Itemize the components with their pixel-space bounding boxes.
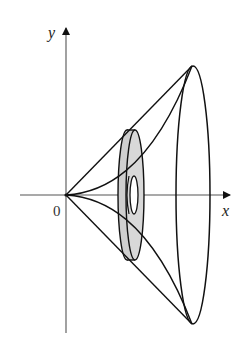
origin-label: 0 (53, 203, 61, 219)
y-axis-label: y (46, 24, 56, 42)
washer-cross-section (118, 130, 144, 260)
washer-hole (130, 176, 138, 214)
solid-of-revolution-diagram: y x 0 (0, 0, 249, 355)
x-axis-label: x (221, 202, 229, 219)
origin-point (64, 193, 67, 196)
